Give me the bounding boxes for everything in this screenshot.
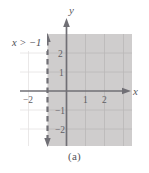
coordinate-plane-plot: x y −2 1 2 2 1 −1 −2 x > −1 [0, 0, 149, 150]
y-tick-label-neg2: −2 [55, 125, 65, 135]
y-tick-label-1: 1 [59, 68, 64, 78]
x-axis-label: x [132, 85, 138, 97]
x-tick-label-2: 2 [102, 95, 107, 105]
x-tick-label-neg2: −2 [23, 95, 33, 105]
y-axis-label: y [68, 4, 74, 16]
y-tick-label-neg1: −1 [55, 106, 65, 116]
inequality-graph-figure: x y −2 1 2 2 1 −1 −2 x > −1 (a) [0, 0, 149, 173]
x-tick-label-1: 1 [83, 95, 88, 105]
y-tick-label-2: 2 [58, 49, 63, 59]
inequality-label: x > −1 [9, 34, 47, 51]
inequality-label-text: x > −1 [11, 37, 41, 48]
figure-caption: (a) [0, 150, 149, 162]
y-axis-arrow-icon [63, 18, 70, 27]
